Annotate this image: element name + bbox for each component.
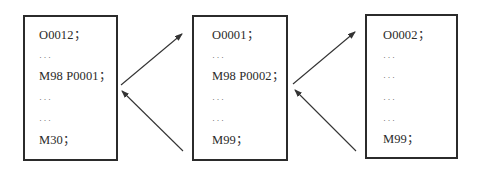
return-arrow-sub2-to-sub1	[295, 90, 356, 151]
main-program-line-4: ···	[39, 92, 53, 106]
subprogram-1-line-3: M98 P0002；	[212, 69, 285, 83]
subprogram-2-line-5: ···	[383, 113, 397, 127]
subprogram-1-line-4: ···	[212, 92, 226, 106]
subprogram-2-line-6: M99；	[383, 132, 420, 146]
main-program-line-3: M98 P0001；	[39, 69, 112, 83]
subprogram-2-line-1: O0002；	[383, 28, 431, 42]
subprogram-2-line-3: ···	[383, 70, 397, 84]
main-program-line-2: ···	[39, 50, 53, 64]
main-program-line-1: O0012；	[39, 28, 87, 42]
main-program-line-5: ···	[39, 113, 53, 127]
main-program-line-6: M30；	[39, 133, 76, 147]
subprogram-1-line-2: ···	[212, 50, 226, 64]
call-arrow-sub1-to-sub2	[293, 32, 355, 84]
subprogram-2-line-2: ···	[383, 50, 397, 64]
subprogram-1-line-6: M99；	[212, 133, 249, 147]
call-arrow-main-to-sub1	[121, 34, 182, 85]
return-arrow-sub1-to-main	[122, 91, 183, 151]
subprogram-1-line-5: ···	[212, 113, 226, 127]
subprogram-1-line-1: O0001；	[212, 28, 260, 42]
subprogram-2-line-4: ···	[383, 92, 397, 106]
